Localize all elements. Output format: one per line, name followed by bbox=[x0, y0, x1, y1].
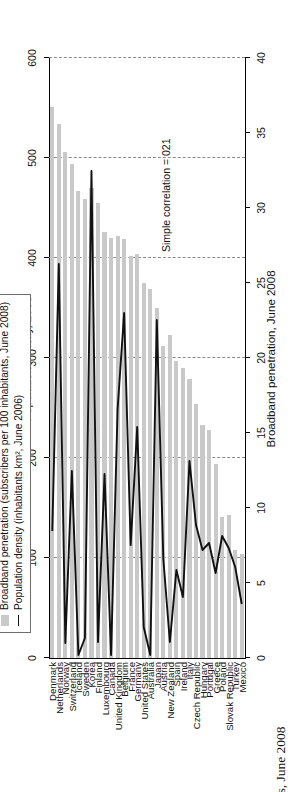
rotated-figure-wrapper: Population density, 2006 Broadband penet… bbox=[0, 0, 295, 792]
bottom-tick-label: 0 bbox=[255, 655, 267, 661]
top-tick bbox=[44, 557, 49, 558]
category-labels: DenmarkNetherlandsNorwaySwitzerlandIcela… bbox=[49, 59, 245, 658]
top-tick-label: 0 bbox=[26, 655, 38, 661]
figure-caption-text: OECD broadband penetration and populatio… bbox=[273, 726, 288, 792]
bottom-tick-label: 25 bbox=[255, 277, 267, 289]
top-tick bbox=[44, 657, 49, 658]
bottom-tick bbox=[245, 432, 250, 433]
figure-page: Population density, 2006 Broadband penet… bbox=[0, 0, 295, 792]
bottom-tick bbox=[245, 207, 250, 208]
correlation-annotation: Simple correlation = 021 bbox=[160, 138, 172, 252]
top-tick bbox=[44, 357, 49, 358]
bottom-tick bbox=[245, 132, 250, 133]
bottom-tick-label: 35 bbox=[255, 127, 267, 139]
bottom-tick bbox=[245, 282, 250, 283]
legend-label-broadband: Broadband penetration (subscribers per 1… bbox=[0, 302, 10, 610]
bottom-tick-label: 30 bbox=[255, 202, 267, 214]
legend-item-density: Population density (inhabitants km², Jun… bbox=[12, 302, 25, 626]
chart-figure: Population density, 2006 Broadband penet… bbox=[19, 0, 277, 723]
category-label: Mexico bbox=[236, 662, 247, 692]
bottom-tick-label: 20 bbox=[255, 352, 267, 364]
chart-legend: Broadband penetration (subscribers per 1… bbox=[0, 294, 31, 633]
plot-area: 0100200300400500600 0510152025303540 Den… bbox=[49, 59, 245, 659]
legend-label-density: Population density (inhabitants km², Jun… bbox=[13, 395, 24, 610]
bottom-tick bbox=[245, 57, 250, 58]
bottom-tick bbox=[245, 507, 250, 508]
bottom-tick-label: 40 bbox=[255, 52, 267, 64]
legend-item-broadband: Broadband penetration (subscribers per 1… bbox=[0, 302, 11, 626]
bottom-tick bbox=[245, 357, 250, 358]
top-tick-label: 500 bbox=[26, 149, 38, 167]
top-tick-label: 400 bbox=[26, 249, 38, 267]
top-tick bbox=[44, 157, 49, 158]
bottom-tick-label: 15 bbox=[255, 427, 267, 439]
bottom-tick bbox=[245, 582, 250, 583]
top-tick bbox=[44, 57, 49, 58]
bottom-tick-label: 10 bbox=[255, 502, 267, 514]
top-tick bbox=[44, 257, 49, 258]
top-tick bbox=[44, 457, 49, 458]
bar-swatch-icon bbox=[0, 615, 8, 626]
bottom-tick-label: 5 bbox=[255, 580, 267, 586]
figure-caption: Figure 5.2 OECD broadband penetration an… bbox=[273, 784, 289, 792]
line-swatch-icon bbox=[18, 615, 19, 626]
bottom-tick bbox=[245, 657, 250, 658]
top-tick-label: 600 bbox=[26, 49, 38, 67]
